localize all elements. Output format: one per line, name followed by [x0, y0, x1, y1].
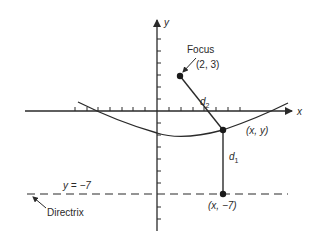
curve-point-label: (x, y) — [246, 125, 268, 136]
parabola-diagram: x y — [0, 0, 317, 247]
d2-label: d2 — [200, 96, 210, 109]
y-axis-label: y — [163, 17, 170, 28]
directrix-point-label: (x, −7) — [208, 200, 237, 211]
x-axis-label: x — [296, 106, 303, 117]
focus-label: Focus — [187, 44, 214, 55]
directrix-label: Directrix — [47, 207, 84, 218]
curve-point — [220, 127, 226, 133]
y-axis: y — [157, 17, 170, 231]
focus-point — [177, 73, 183, 79]
directrix-equation: y = −7 — [62, 180, 91, 191]
d1-label: d1 — [229, 151, 239, 164]
directrix-pointer-arrow — [33, 197, 46, 208]
focus-pointer-arrow — [183, 58, 196, 72]
directrix-point — [220, 191, 226, 197]
focus-coordinates: (2, 3) — [196, 59, 219, 70]
